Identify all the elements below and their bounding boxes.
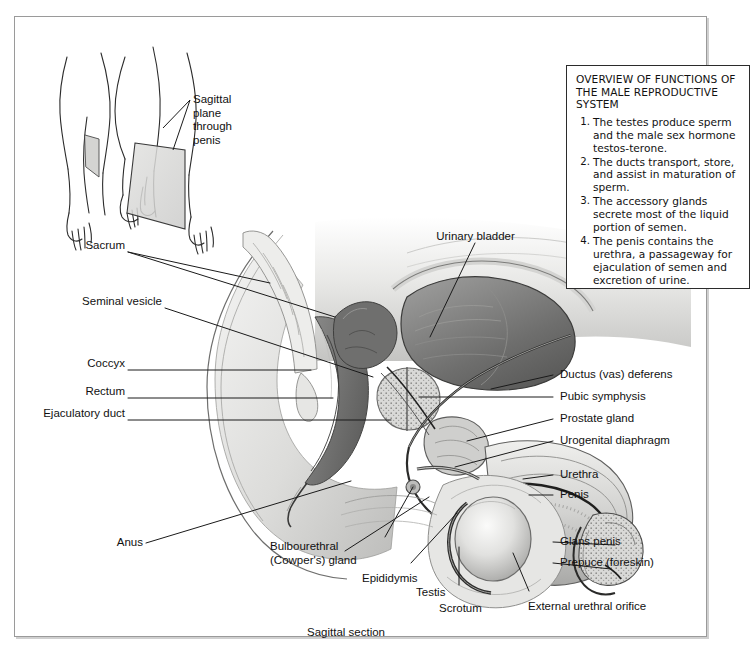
overview-item: The penis contains the urethra, a passag… bbox=[576, 235, 740, 287]
label-coccyx: Coccyx bbox=[15, 357, 125, 371]
overview-item: The ducts transport, store, and assist i… bbox=[576, 156, 740, 195]
overview-item: The testes produce sperm and the male se… bbox=[576, 116, 740, 155]
label-anus: Anus bbox=[15, 536, 143, 550]
label-bulbourethral-cowpers-gland: Bulbourethral (Cowper's) gland bbox=[270, 540, 357, 567]
figure-caption: Sagittal section bbox=[307, 626, 385, 638]
overview-title: OVERVIEW OF FUNCTIONS OF THE MALE REPROD… bbox=[576, 73, 740, 111]
label-pubic-symphysis: Pubic symphysis bbox=[560, 390, 646, 404]
inset-leader-line bbox=[163, 100, 190, 150]
overview-box: OVERVIEW OF FUNCTIONS OF THE MALE REPROD… bbox=[566, 65, 750, 289]
label-ejaculatory-duct: Ejaculatory duct bbox=[15, 407, 125, 421]
label-penis: Penis bbox=[560, 488, 589, 502]
label-prepuce-foreskin: Prepuce (foreskin) bbox=[560, 556, 654, 570]
label-testis: Testis bbox=[416, 586, 445, 600]
label-urethra: Urethra bbox=[560, 468, 598, 482]
label-urogenital-diaphragm: Urogenital diaphragm bbox=[560, 434, 670, 448]
label-sacrum: Sacrum bbox=[15, 239, 125, 253]
label-external-urethral-orifice: External urethral orifice bbox=[528, 600, 646, 614]
label-prostate-gland: Prostate gland bbox=[560, 412, 634, 426]
figure-page: Sagittal plane through penis Sacrum Semi… bbox=[0, 0, 756, 651]
inset-sagittal-plane-label: Sagittal plane through penis bbox=[193, 93, 232, 147]
label-scrotum: Scrotum bbox=[439, 602, 482, 616]
figure-frame: Sagittal plane through penis Sacrum Semi… bbox=[14, 16, 707, 637]
label-urinary-bladder: Urinary bladder bbox=[418, 230, 533, 244]
sagittal-plane-shape bbox=[127, 143, 185, 229]
overview-list: The testes produce sperm and the male se… bbox=[576, 116, 740, 287]
overview-item: The accessory glands secrete most of the… bbox=[576, 195, 740, 234]
inset-torso-figures bbox=[60, 53, 110, 250]
label-glans-penis: Glans penis bbox=[560, 535, 621, 549]
label-epididymis: Epididymis bbox=[362, 572, 418, 586]
label-seminal-vesicle: Seminal vesicle bbox=[15, 295, 162, 309]
glans-penis-structure bbox=[579, 513, 643, 585]
coccyx-structure bbox=[296, 373, 318, 421]
label-rectum: Rectum bbox=[15, 385, 125, 399]
label-ductus-vas-deferens: Ductus (vas) deferens bbox=[560, 368, 673, 382]
